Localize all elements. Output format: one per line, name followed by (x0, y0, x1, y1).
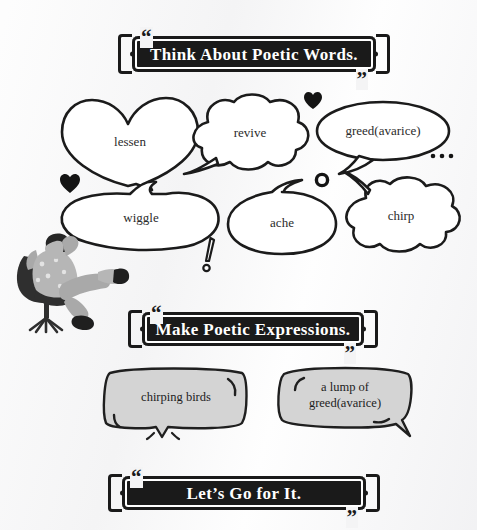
ring-dot-icon (315, 173, 329, 187)
banner-think-about-poetic-words: Think About Poetic Words. “ ” (118, 30, 390, 78)
banner-bracket-left (108, 474, 122, 512)
phrase-bubble-lump-of-greed[interactable]: a lump of greed(avarice) (270, 366, 420, 438)
phrase-bubble-lump-of-greed-line1: a lump of (270, 380, 420, 396)
phrase-bubble-chirping-birds[interactable]: chirping birds (96, 367, 256, 439)
banner-bracket-left (128, 310, 142, 348)
banner-title: Make Poetic Expressions. (156, 321, 351, 338)
bubble-chirp[interactable]: chirp (336, 172, 466, 256)
worksheet-page: Think About Poetic Words. “ ” lessen rev… (0, 0, 477, 530)
heart-small-left-icon (60, 174, 80, 194)
phrase-bubble-lump-of-greed-line2: greed(avarice) (270, 396, 420, 412)
bubble-revive-label: revive (184, 125, 316, 141)
banner-title: Let’s Go for It. (187, 485, 302, 502)
banner-plate: Make Poetic Expressions. (142, 312, 364, 346)
quote-close-icon: ” (344, 343, 357, 364)
bubble-wiggle-label: wiggle (56, 210, 226, 226)
banner-bracket-right (364, 310, 378, 348)
person-reclining-in-chair-illustration (14, 232, 130, 338)
bubble-revive[interactable]: revive (184, 92, 316, 176)
banner-title: Think About Poetic Words. (150, 46, 358, 63)
quote-open-icon: “ (130, 467, 143, 488)
banner-plate: Think About Poetic Words. (132, 36, 376, 72)
banner-lets-go-for-it: Let’s Go for It. “ ” (108, 470, 380, 516)
heart-small-top-icon (304, 92, 322, 110)
phrase-bubble-chirping-birds-label: chirping birds (96, 390, 256, 406)
bubble-chirp-label: chirp (336, 208, 466, 224)
ellipsis-dots-icon (430, 152, 456, 160)
bubble-ache[interactable]: ache (222, 180, 342, 256)
banner-bracket-right (376, 34, 390, 74)
bubble-lessen-label: lessen (56, 134, 204, 150)
banner-plate: Let’s Go for It. (122, 476, 366, 510)
bubble-ache-label: ache (222, 215, 342, 231)
banner-make-poetic-expressions: Make Poetic Expressions. “ ” (128, 306, 378, 352)
bubble-greed[interactable]: greed(avarice) (313, 98, 453, 174)
bubble-greed-label: greed(avarice) (313, 123, 453, 139)
quote-close-icon: ” (346, 507, 359, 528)
exclamation-mark-icon (199, 236, 219, 274)
quote-open-icon: “ (150, 303, 163, 324)
banner-bracket-left (118, 34, 132, 74)
banner-bracket-right (366, 474, 380, 512)
quote-open-icon: “ (140, 27, 153, 48)
quote-close-icon: ” (356, 69, 369, 90)
